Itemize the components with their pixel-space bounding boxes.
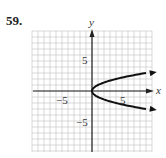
x-axis-arrow-icon — [146, 89, 154, 94]
y-axis-arrow-icon — [90, 29, 95, 37]
curve-arrow-bottom-icon — [149, 106, 156, 112]
x-axis-label: x — [155, 84, 161, 96]
curve-arrow-top-icon — [149, 70, 156, 76]
y-tick-neg5: −5 — [76, 116, 88, 128]
x-tick-5: 5 — [120, 94, 126, 106]
x-tick-neg5: −5 — [56, 94, 68, 106]
graph: y x −5 5 5 −5 — [0, 0, 166, 158]
y-tick-5: 5 — [82, 54, 88, 66]
y-axis-label: y — [88, 16, 94, 28]
